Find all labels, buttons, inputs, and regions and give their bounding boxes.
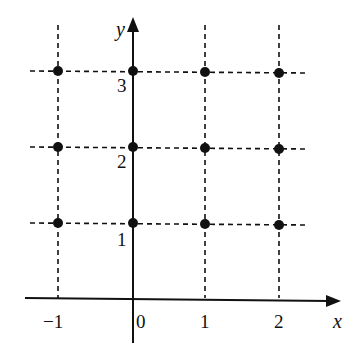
- horizontal-grid-lines: [30, 71, 308, 225]
- x-tick-minus-1: −1: [43, 311, 63, 332]
- x-tick-0: 0: [136, 311, 146, 332]
- y-axis: [127, 17, 139, 343]
- x-tick-2: 2: [274, 311, 284, 332]
- x-tick-1: 1: [200, 311, 210, 332]
- y-tick-3: 3: [117, 75, 127, 96]
- y-tick-1: 1: [117, 229, 127, 250]
- x-axis: [25, 295, 341, 307]
- vertical-grid-lines: [58, 25, 279, 298]
- y-tick-2: 2: [117, 151, 127, 172]
- coordinate-plane: y x 3 2 1 −1 0 1 2: [0, 0, 363, 359]
- y-axis-arrow-icon: [127, 17, 139, 32]
- y-axis-label: y: [114, 18, 125, 41]
- x-axis-label: x: [332, 310, 342, 332]
- x-axis-arrow-icon: [326, 295, 341, 307]
